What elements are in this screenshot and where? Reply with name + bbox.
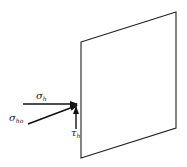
sigma-ho-label: σho (9, 112, 24, 124)
plane-panel (81, 12, 176, 158)
tau-h-label: τh (71, 127, 81, 139)
stress-diagram: σh σho τh (0, 0, 187, 167)
sigma-h-label: σh (36, 90, 47, 102)
sigma-ho-arrow (28, 106, 77, 125)
